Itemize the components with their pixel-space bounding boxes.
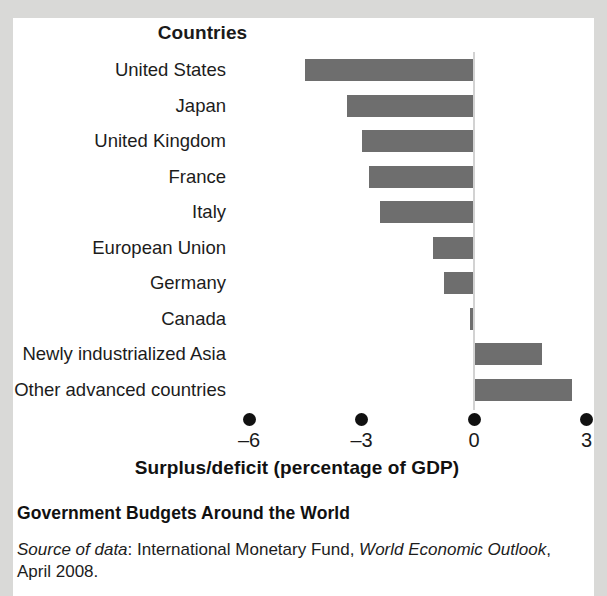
bar xyxy=(474,343,542,365)
chart-plot-area: United StatesJapanUnited KingdomFranceIt… xyxy=(0,52,594,407)
caption-source: Source of data: International Monetary F… xyxy=(17,539,577,584)
bar-category-label: Newly industrialized Asia xyxy=(22,336,226,372)
bar-category-label: Canada xyxy=(161,301,226,337)
bar-category-label: Other advanced countries xyxy=(14,372,226,408)
bar-row: Newly industrialized Asia xyxy=(0,336,594,372)
bar-category-label: Germany xyxy=(150,265,226,301)
bar xyxy=(444,272,474,294)
zero-reference-line xyxy=(473,52,475,410)
bar-row: United States xyxy=(0,52,594,88)
bar-row: Germany xyxy=(0,265,594,301)
bar-category-label: Italy xyxy=(192,194,226,230)
axis-tick-marker xyxy=(468,413,481,426)
bar xyxy=(474,379,572,401)
axis-tick-label: –3 xyxy=(337,429,387,452)
bar-category-label: United Kingdom xyxy=(94,123,226,159)
bar-row: Other advanced countries xyxy=(0,372,594,408)
bar xyxy=(347,95,475,117)
axis-tick-label: 3 xyxy=(562,429,607,452)
bar xyxy=(380,201,474,223)
bar-row: Italy xyxy=(0,194,594,230)
axis-tick-marker xyxy=(355,413,368,426)
bar xyxy=(369,166,474,188)
axis-tick-label: –6 xyxy=(224,429,274,452)
bar-row: United Kingdom xyxy=(0,123,594,159)
axis-tick-marker xyxy=(580,413,593,426)
source-publication: World Economic Outlook xyxy=(359,540,546,559)
bar xyxy=(362,130,475,152)
countries-column-header: Countries xyxy=(155,22,250,44)
bar-row: France xyxy=(0,159,594,195)
bar-row: Japan xyxy=(0,88,594,124)
bar-category-label: Japan xyxy=(176,88,226,124)
source-separator: : xyxy=(128,540,137,559)
bar-category-label: European Union xyxy=(92,230,226,266)
source-label: Source of data xyxy=(17,540,128,559)
figure-caption: Government Budgets Around the World Sour… xyxy=(17,503,577,584)
axis-tick-label: 0 xyxy=(449,429,499,452)
bar-row: European Union xyxy=(0,230,594,266)
bar-chart-figure: Countries United StatesJapanUnited Kingd… xyxy=(0,0,594,500)
x-axis: Surplus/deficit (percentage of GDP) –6–3… xyxy=(0,407,594,497)
axis-tick-marker xyxy=(243,413,256,426)
bar xyxy=(305,59,474,81)
bar-category-label: United States xyxy=(115,52,226,88)
bar xyxy=(433,237,474,259)
x-axis-title: Surplus/deficit (percentage of GDP) xyxy=(0,457,594,479)
caption-title: Government Budgets Around the World xyxy=(17,503,577,524)
bar-row: Canada xyxy=(0,301,594,337)
source-organization: International Monetary Fund, xyxy=(137,540,359,559)
bar-category-label: France xyxy=(168,159,226,195)
